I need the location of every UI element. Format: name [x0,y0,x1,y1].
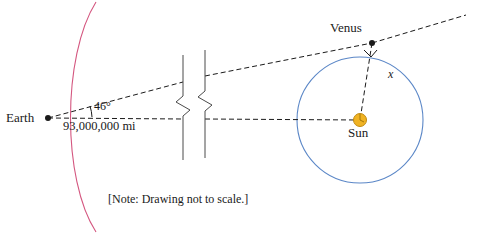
label-earth-sun-distance: 93,000,000 mi [63,119,136,134]
venus-point [369,40,375,46]
baseline-sun-segment [205,119,360,120]
diagram-canvas: Earth Venus Sun 46° 93,000,000 mi x [Not… [0,0,486,236]
venus-sun-radius-line [360,43,372,120]
break-symbol-right [198,50,212,158]
label-sun: Sun [348,125,368,141]
sight-line-extension [372,15,466,43]
label-angle-measure: 46° [94,99,111,114]
earth-point [45,115,51,121]
sight-line-venus-segment [205,43,372,76]
label-scale-note: [Note: Drawing not to scale.] [108,192,248,207]
break-symbol-left [176,55,190,160]
sight-line-earth-segment [48,82,183,118]
label-earth: Earth [6,110,34,126]
label-venus: Venus [330,20,362,36]
label-unknown-distance: x [388,67,393,82]
earth-orbit-arc [71,2,97,232]
angle-arc-marker [90,106,92,117]
